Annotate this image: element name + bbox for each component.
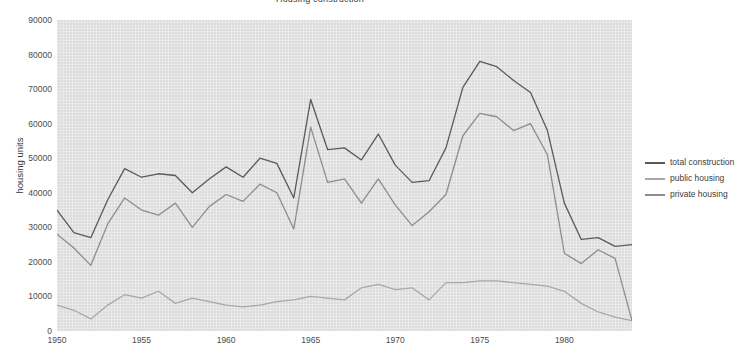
legend-item[interactable]: private housing	[645, 187, 756, 202]
legend-swatch-icon	[645, 162, 665, 164]
y-axis-title: housing units	[14, 111, 25, 221]
legend-label: private housing	[670, 190, 728, 199]
legend-item[interactable]: public housing	[645, 171, 756, 186]
chart-legend: total constructionpublic housingprivate …	[645, 155, 756, 203]
legend-item[interactable]: total construction	[645, 155, 756, 170]
legend-swatch-icon	[645, 178, 665, 180]
series-line	[57, 113, 632, 320]
plot-area	[57, 20, 632, 331]
series-line	[57, 281, 632, 321]
x-tick-label: 1975	[470, 336, 489, 345]
x-tick-label: 1950	[48, 336, 67, 345]
chart-root: Housing construction 0100002000030000400…	[0, 0, 756, 364]
x-tick-label: 1970	[386, 336, 405, 345]
x-tick-label: 1960	[217, 336, 236, 345]
x-tick-label: 1955	[132, 336, 151, 345]
legend-label: total construction	[670, 158, 734, 167]
legend-swatch-icon	[645, 194, 665, 196]
series-line	[57, 61, 632, 246]
x-tick-label: 1980	[555, 336, 574, 345]
legend-label: public housing	[670, 174, 724, 183]
x-tick-label: 1965	[301, 336, 320, 345]
series-lines	[57, 20, 632, 331]
